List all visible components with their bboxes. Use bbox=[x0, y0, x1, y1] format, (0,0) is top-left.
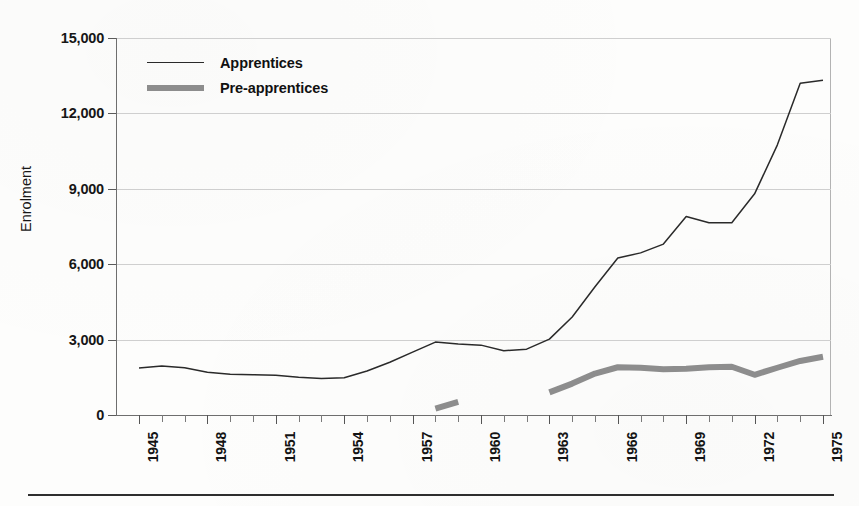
legend-item-pre-apprentices: Pre-apprentices bbox=[147, 75, 367, 100]
y-axis-line bbox=[116, 38, 117, 416]
x-axis-line bbox=[116, 415, 832, 416]
x-tick-mark bbox=[162, 415, 163, 422]
x-tick-mark bbox=[458, 415, 459, 422]
series-line-pre-apprentices-segment-1 bbox=[435, 402, 458, 409]
chart-legend: Apprentices Pre-apprentices bbox=[147, 50, 367, 100]
x-tick-label: 1960 bbox=[487, 432, 503, 462]
x-tick-mark-major bbox=[549, 415, 550, 424]
x-tick-mark-major bbox=[618, 415, 619, 424]
y-tick-label: 9,000 bbox=[69, 181, 104, 197]
legend-item-apprentices: Apprentices bbox=[147, 50, 367, 75]
x-tick-label: 1957 bbox=[419, 432, 435, 462]
x-tick-mark-major bbox=[276, 415, 277, 424]
x-tick-mark bbox=[504, 415, 505, 422]
x-tick-mark-major bbox=[344, 415, 345, 424]
x-tick-label: 1945 bbox=[145, 432, 161, 462]
x-tick-mark-major bbox=[823, 415, 824, 424]
x-tick-mark-major bbox=[755, 415, 756, 424]
x-tick-mark bbox=[390, 415, 391, 422]
y-tick-label: 6,000 bbox=[69, 256, 104, 272]
x-tick-mark bbox=[527, 415, 528, 422]
x-tick-mark bbox=[299, 415, 300, 422]
legend-line-icon-pre-apprentices bbox=[147, 85, 204, 91]
x-tick-mark bbox=[663, 415, 664, 422]
x-tick-mark bbox=[230, 415, 231, 422]
x-tick-mark-major bbox=[413, 415, 414, 424]
x-tick-mark-major bbox=[207, 415, 208, 424]
x-tick-label: 1975 bbox=[829, 432, 845, 462]
x-tick-mark bbox=[185, 415, 186, 422]
y-tick-label: 3,000 bbox=[69, 332, 104, 348]
y-tick-mark bbox=[108, 189, 116, 190]
x-tick-label: 1948 bbox=[213, 432, 229, 462]
y-tick-mark bbox=[108, 38, 116, 39]
x-tick-mark bbox=[253, 415, 254, 422]
y-tick-mark bbox=[108, 340, 116, 341]
legend-label-apprentices: Apprentices bbox=[220, 55, 303, 71]
y-tick-label: 12,000 bbox=[61, 105, 104, 121]
series-line-pre-apprentices-segment-2 bbox=[549, 357, 823, 393]
x-tick-label: 1969 bbox=[692, 432, 708, 462]
x-tick-mark bbox=[321, 415, 322, 422]
x-tick-mark bbox=[777, 415, 778, 422]
y-tick-mark bbox=[108, 113, 116, 114]
x-tick-mark bbox=[709, 415, 710, 422]
y-axis-title: Enrolment bbox=[18, 166, 34, 232]
y-tick-mark bbox=[108, 415, 116, 416]
x-tick-mark bbox=[641, 415, 642, 422]
chart-figure: Enrolment 03,0006,0009,00012,00015,000 1… bbox=[0, 0, 859, 506]
series-line-apprentices bbox=[139, 80, 823, 378]
x-tick-mark bbox=[435, 415, 436, 422]
x-tick-label: 1951 bbox=[282, 432, 298, 462]
legend-line-icon-apprentices bbox=[147, 62, 204, 64]
x-tick-mark bbox=[732, 415, 733, 422]
x-tick-label: 1954 bbox=[350, 432, 366, 462]
x-tick-label: 1972 bbox=[761, 432, 777, 462]
x-tick-label: 1963 bbox=[555, 432, 571, 462]
footer-rule bbox=[28, 494, 834, 496]
x-tick-mark bbox=[572, 415, 573, 422]
x-tick-mark-major bbox=[686, 415, 687, 424]
x-tick-label: 1966 bbox=[624, 432, 640, 462]
x-tick-mark-major bbox=[139, 415, 140, 424]
x-tick-mark bbox=[800, 415, 801, 422]
x-tick-mark bbox=[595, 415, 596, 422]
legend-label-pre-apprentices: Pre-apprentices bbox=[220, 80, 328, 96]
x-tick-mark-major bbox=[481, 415, 482, 424]
y-tick-label: 15,000 bbox=[61, 30, 104, 46]
y-tick-mark bbox=[108, 264, 116, 265]
y-tick-label: 0 bbox=[96, 407, 104, 423]
x-tick-mark bbox=[367, 415, 368, 422]
